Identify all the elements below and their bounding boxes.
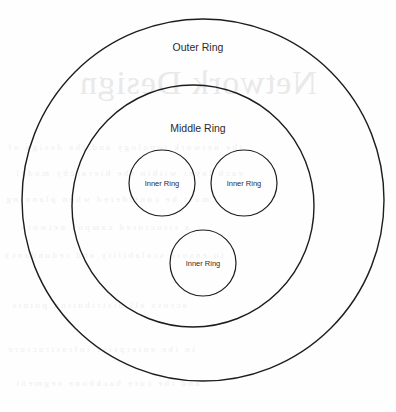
inner-ring-left-label: Inner Ring — [122, 179, 202, 188]
inner-ring-bottom-label: Inner Ring — [163, 259, 243, 268]
concentric-rings-diagram: Outer Ring Middle Ring Inner Ring Inner … — [0, 0, 396, 412]
middle-ring-label: Middle Ring — [0, 122, 396, 134]
outer-ring-label: Outer Ring — [0, 41, 396, 53]
diagram-canvas — [0, 0, 396, 412]
inner-ring-right-label: Inner Ring — [204, 179, 284, 188]
scanned-page: Network Design the network topology and … — [0, 0, 396, 412]
